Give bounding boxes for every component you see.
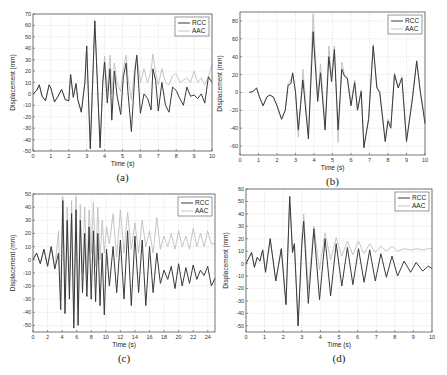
x-tick-label: 1 xyxy=(263,334,266,340)
x-tick-label: 6 xyxy=(139,153,142,159)
x-tick-label: 8 xyxy=(175,153,178,159)
y-tick-label: 30 xyxy=(238,223,244,229)
y-tick-label: 60 xyxy=(232,36,238,42)
y-tick-label: 10 xyxy=(25,80,31,86)
y-tick-label: -20 xyxy=(230,107,238,113)
x-tick-label: 8 xyxy=(386,157,389,163)
y-tick-label: -40 xyxy=(236,310,244,316)
y-tick-label: -40 xyxy=(23,137,31,143)
x-tick-label: 1 xyxy=(257,157,260,163)
y-tick-label: 0 xyxy=(28,91,31,97)
y-tick-label: 0 xyxy=(241,261,244,267)
y-tick-label: 10 xyxy=(238,248,244,254)
y-axis-title: Displacement (mm) xyxy=(9,235,17,291)
x-axis-title: Time (s) xyxy=(321,164,345,172)
legend-aac-label: AAC xyxy=(192,27,206,34)
y-tick-label: -20 xyxy=(23,283,31,289)
y-tick-label: 10 xyxy=(25,244,31,250)
y-tick-label: 60 xyxy=(25,22,31,28)
panel-a: 012345678910-50-40-30-20-100102030405060… xyxy=(9,11,215,184)
y-tick-label: -50 xyxy=(23,148,31,154)
x-tick-label: 10 xyxy=(103,334,109,340)
figure-canvas: 012345678910-50-40-30-20-100102030405060… xyxy=(0,0,447,375)
y-tick-label: -10 xyxy=(236,273,244,279)
y-tick-label: -50 xyxy=(236,323,244,329)
legend: RCCAAC xyxy=(178,197,212,216)
x-tick-label: 20 xyxy=(176,334,182,340)
y-tick-label: 50 xyxy=(25,34,31,40)
legend-rcc-label: RCC xyxy=(412,194,426,201)
y-tick-label: 20 xyxy=(25,68,31,74)
y-tick-label: 50 xyxy=(25,191,31,197)
x-tick-label: 18 xyxy=(161,334,167,340)
x-axis-title: Time (s) xyxy=(327,341,351,349)
x-tick-label: 0 xyxy=(244,334,247,340)
x-tick-label: 3 xyxy=(294,157,297,163)
legend-aac-label: AAC xyxy=(195,207,209,214)
panel-d: 012345678910-50-40-30-20-100102030405060… xyxy=(222,186,435,365)
y-tick-label: -40 xyxy=(23,309,31,315)
x-tick-label: 6 xyxy=(75,334,78,340)
x-tick-label: 10 xyxy=(422,157,428,163)
x-tick-label: 0 xyxy=(31,334,34,340)
x-tick-label: 2 xyxy=(67,153,70,159)
legend-rcc-label: RCC xyxy=(192,19,206,26)
y-tick-label: -10 xyxy=(23,270,31,276)
y-tick-label: 50 xyxy=(238,198,244,204)
y-tick-label: -20 xyxy=(23,114,31,120)
y-tick-label: 0 xyxy=(28,257,31,263)
x-tick-label: 0 xyxy=(31,153,34,159)
legend-rcc-label: RCC xyxy=(405,17,419,24)
y-tick-label: 60 xyxy=(238,186,244,192)
y-tick-label: -30 xyxy=(23,296,31,302)
x-tick-label: 4 xyxy=(319,334,322,340)
y-tick-label: 30 xyxy=(25,217,31,223)
y-axis-title: Displacement (mm) xyxy=(216,55,224,111)
x-tick-label: 7 xyxy=(157,153,160,159)
x-tick-label: 5 xyxy=(121,153,124,159)
panel-b: 012345678910-60-40-20020406080Time (s)Di… xyxy=(216,12,428,188)
x-tick-label: 10 xyxy=(429,334,435,340)
x-tick-label: 7 xyxy=(375,334,378,340)
y-tick-label: 20 xyxy=(238,236,244,242)
y-tick-label: -30 xyxy=(23,125,31,131)
x-tick-label: 7 xyxy=(368,157,371,163)
x-tick-label: 3 xyxy=(85,153,88,159)
legend: RCCAAC xyxy=(388,15,422,34)
y-tick-label: -60 xyxy=(230,143,238,149)
x-axis-ticks: 012345678910 xyxy=(31,149,215,159)
x-axis-title: Time (s) xyxy=(112,341,136,349)
x-tick-label: 22 xyxy=(190,334,196,340)
x-tick-label: 2 xyxy=(46,334,49,340)
y-tick-label: 40 xyxy=(25,45,31,51)
x-axis-title: Time (s) xyxy=(111,160,135,168)
y-tick-label: 40 xyxy=(232,54,238,60)
x-axis-ticks: 012345678910 xyxy=(238,153,428,163)
y-tick-label: 20 xyxy=(25,230,31,236)
panel-caption: (d) xyxy=(333,352,346,365)
x-tick-label: 9 xyxy=(405,157,408,163)
x-tick-label: 12 xyxy=(117,334,123,340)
x-tick-label: 4 xyxy=(312,157,315,163)
x-tick-label: 0 xyxy=(238,157,241,163)
y-tick-label: 0 xyxy=(235,89,238,95)
y-tick-label: 40 xyxy=(25,204,31,210)
x-tick-label: 6 xyxy=(356,334,359,340)
legend-aac-label: AAC xyxy=(405,25,419,32)
x-tick-label: 4 xyxy=(103,153,106,159)
y-axis-title: Displacement (mm) xyxy=(9,54,17,110)
y-tick-label: 40 xyxy=(238,211,244,217)
x-tick-label: 5 xyxy=(337,334,340,340)
x-tick-label: 3 xyxy=(300,334,303,340)
x-axis-ticks: 024681012141618202224 xyxy=(31,330,210,340)
x-axis-ticks: 012345678910 xyxy=(244,330,435,340)
y-tick-label: 70 xyxy=(25,11,31,17)
x-tick-label: 2 xyxy=(275,157,278,163)
panel-c: 024681012141618202224-50-40-30-20-100102… xyxy=(9,191,215,365)
x-tick-label: 8 xyxy=(393,334,396,340)
y-tick-label: -40 xyxy=(230,125,238,131)
y-tick-label: -50 xyxy=(23,322,31,328)
y-tick-label: 20 xyxy=(232,72,238,78)
x-tick-label: 1 xyxy=(49,153,52,159)
y-tick-label: -10 xyxy=(23,102,31,108)
